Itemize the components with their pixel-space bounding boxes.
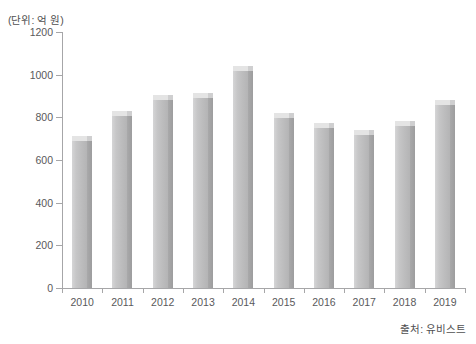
bar-top-bevel xyxy=(450,100,455,105)
x-axis-label: 2012 xyxy=(151,296,174,308)
y-axis-tick xyxy=(56,117,63,118)
y-axis-label: 800 xyxy=(35,111,53,123)
bar-2019 xyxy=(435,100,455,288)
bar-2011 xyxy=(112,111,132,288)
bar-front-face xyxy=(435,105,450,288)
bar-2014 xyxy=(233,66,253,288)
source-note: 출처: 유비스트 xyxy=(400,321,466,336)
y-axis-tick xyxy=(56,203,63,204)
x-axis-label: 2019 xyxy=(433,296,456,308)
x-axis-tick xyxy=(465,288,466,293)
bar-2017 xyxy=(354,130,374,288)
bar-side-face xyxy=(208,98,213,288)
x-axis-tick xyxy=(183,288,184,293)
x-axis-label: 2016 xyxy=(312,296,335,308)
x-axis-tick xyxy=(425,288,426,293)
bar-top-face xyxy=(354,130,369,135)
bar-top-bevel xyxy=(289,113,294,118)
x-axis-tick xyxy=(304,288,305,293)
x-axis-tick xyxy=(264,288,265,293)
bar-top-face xyxy=(72,136,87,141)
plot-area: 020040060080010001200 201020112012201320… xyxy=(62,32,465,288)
y-axis-label: 1200 xyxy=(30,26,53,38)
bar-front-face xyxy=(314,128,329,288)
bar-front-face xyxy=(354,135,369,288)
bar-2010 xyxy=(72,136,92,288)
bar-top-bevel xyxy=(87,136,92,141)
bar-front-face xyxy=(233,71,248,288)
bar-2012 xyxy=(153,95,173,288)
x-axis-label: 2017 xyxy=(353,296,376,308)
y-axis-label: 200 xyxy=(35,239,53,251)
bar-2015 xyxy=(274,113,294,288)
y-axis-tick xyxy=(56,245,63,246)
y-axis-tick xyxy=(56,32,63,33)
bar-side-face xyxy=(289,118,294,288)
bar-front-face xyxy=(274,118,289,288)
x-axis-tick xyxy=(223,288,224,293)
bar-top-face xyxy=(314,123,329,128)
bar-side-face xyxy=(410,126,415,288)
bar-top-face xyxy=(112,111,127,116)
bar-side-face xyxy=(329,128,334,288)
bar-2016 xyxy=(314,123,334,288)
bar-top-face xyxy=(193,93,208,98)
bar-front-face xyxy=(395,126,410,288)
bar-top-bevel xyxy=(127,111,132,116)
bar-side-face xyxy=(168,100,173,288)
bar-side-face xyxy=(127,116,132,288)
y-axis-label: 1000 xyxy=(30,69,53,81)
bar-front-face xyxy=(153,100,168,288)
x-axis-tick xyxy=(344,288,345,293)
x-axis-label: 2010 xyxy=(70,296,93,308)
bar-front-face xyxy=(193,98,208,288)
bar-top-bevel xyxy=(208,93,213,98)
x-axis-label: 2018 xyxy=(393,296,416,308)
bar-side-face xyxy=(450,105,455,288)
x-axis-label: 2011 xyxy=(111,296,134,308)
y-axis-label: 400 xyxy=(35,197,53,209)
x-axis-tick xyxy=(384,288,385,293)
x-axis-label: 2015 xyxy=(272,296,295,308)
bar-chart-figure: (단위: 억 원) 020040060080010001200 20102011… xyxy=(0,0,476,344)
x-axis-tick xyxy=(102,288,103,293)
y-axis-label: 0 xyxy=(47,282,53,294)
y-axis-label: 600 xyxy=(35,154,53,166)
bar-top-face xyxy=(274,113,289,118)
bar-top-bevel xyxy=(329,123,334,128)
x-axis-label: 2013 xyxy=(191,296,214,308)
x-axis-tick xyxy=(62,288,63,293)
bar-top-bevel xyxy=(410,121,415,126)
y-axis-tick xyxy=(56,75,63,76)
unit-note: (단위: 억 원) xyxy=(8,12,64,27)
bar-2013 xyxy=(193,93,213,288)
bar-side-face xyxy=(369,135,374,288)
bar-side-face xyxy=(248,71,253,288)
bar-front-face xyxy=(112,116,127,288)
bar-top-face xyxy=(233,66,248,71)
bar-side-face xyxy=(87,141,92,288)
bar-top-face xyxy=(153,95,168,100)
bar-2018 xyxy=(395,121,415,288)
x-axis-label: 2014 xyxy=(232,296,255,308)
bar-top-face xyxy=(435,100,450,105)
bar-front-face xyxy=(72,141,87,288)
bar-top-bevel xyxy=(248,66,253,71)
y-axis-tick xyxy=(56,160,63,161)
bar-top-bevel xyxy=(168,95,173,100)
bar-top-face xyxy=(395,121,410,126)
x-axis-tick xyxy=(143,288,144,293)
bar-top-bevel xyxy=(369,130,374,135)
